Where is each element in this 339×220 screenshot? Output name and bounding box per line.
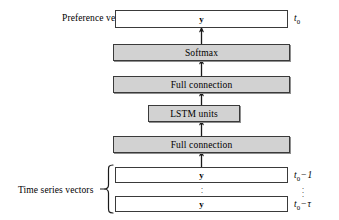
full-connection-lower-label: Full connection (171, 140, 233, 150)
output-time-label: t0 (294, 13, 300, 25)
lstm-units-box: LSTM units (148, 105, 240, 122)
input-vector-last-box: y (115, 196, 288, 212)
input-vector-first-time-label: t0−1 (294, 170, 312, 182)
input-vector-last-glyph: y (199, 200, 204, 209)
input-vector-last-time-label: t0−τ (294, 199, 311, 211)
full-connection-lower-box: Full connection (113, 136, 290, 153)
input-vector-first-glyph: y (199, 171, 204, 180)
time-series-vectors-label: Time series vectors (18, 185, 93, 195)
time-labels-ellipsis: ... (297, 185, 309, 197)
softmax-box: Softmax (113, 44, 290, 61)
preference-vector-glyph: y (199, 15, 204, 24)
input-vector-first-box: y (115, 167, 288, 183)
full-connection-upper-box: Full connection (113, 76, 290, 93)
time-series-brace (100, 164, 116, 214)
architecture-diagram: Preference vector y t0 Softmax Full conn… (0, 0, 339, 220)
full-connection-upper-label: Full connection (171, 80, 233, 90)
preference-vector-box: y (115, 10, 288, 28)
softmax-label: Softmax (185, 48, 218, 58)
lstm-units-label: LSTM units (170, 109, 218, 119)
